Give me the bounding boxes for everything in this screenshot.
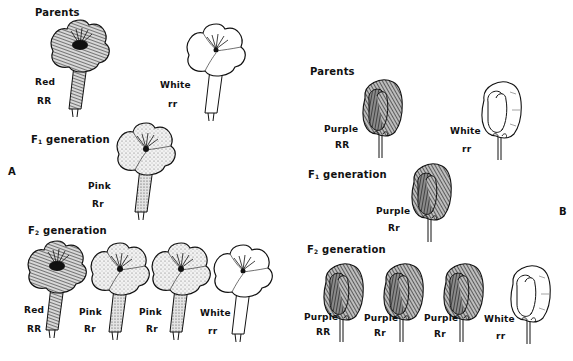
panel-a-parent-red-flower [47, 17, 113, 117]
panel-a-f2-1-color: Red [24, 306, 44, 315]
panel-a-f2-1-genotype: RR [27, 325, 41, 334]
panel-a-parent-white-flower [183, 21, 249, 129]
panel-a-parent-2-color: White [160, 81, 191, 90]
panel-b-f2-4-genotype: rr [496, 332, 505, 341]
panel-b-f1-color: Purple [376, 207, 410, 216]
panel-b-parent-white-flower [476, 80, 524, 162]
panel-b-f2-1-genotype: RR [316, 328, 330, 337]
panel-b-letter: B [559, 207, 567, 217]
panel-a-f1-color: Pink [88, 182, 111, 191]
panel-a-f2-4-color: White [200, 309, 231, 318]
panel-a-f2-pink-flower-1 [87, 240, 153, 348]
panel-b-f1-genotype: Rr [388, 224, 400, 233]
panel-a-f2-3-genotype: Rr [146, 325, 158, 334]
panel-b-parent-1-genotype: RR [335, 141, 349, 150]
panel-a-f2-3-color: Pink [139, 308, 162, 317]
panel-b-f2-4-color: White [484, 315, 515, 324]
panel-a-f2-2-genotype: Rr [84, 325, 96, 334]
panel-a-f2-2-color: Pink [79, 308, 102, 317]
panel-a-letter: A [8, 167, 16, 177]
panel-a-parent-2-genotype: rr [168, 100, 177, 109]
panel-b-parent-1-color: Purple [324, 125, 358, 134]
panel-b-f2-3-genotype: Rr [434, 330, 446, 339]
panel-b-f1-heading: F1 generation [308, 170, 387, 180]
panel-b-parent-2-genotype: rr [462, 145, 471, 154]
panel-b-f2-white-flower [505, 264, 553, 348]
panel-b-f2-3-color: Purple [424, 314, 458, 323]
panel-b-f2-heading: F2 generation [307, 245, 386, 255]
panel-b-f2-2-genotype: Rr [374, 329, 386, 338]
panel-a-f2-white-flower [210, 242, 276, 350]
panel-b-f2-1-color: Purple [304, 313, 338, 322]
panel-b-parents-heading: Parents [310, 67, 355, 77]
panel-b-parent-purple-flower [357, 78, 405, 160]
panel-b-parent-2-color: White [450, 127, 481, 136]
panel-a-parent-1-color: Red [35, 78, 55, 87]
panel-b-f2-2-color: Purple [364, 314, 398, 323]
panel-a-parent-1-genotype: RR [37, 97, 51, 106]
panel-a-f1-genotype: Rr [92, 200, 104, 209]
panel-a-f2-4-genotype: rr [208, 327, 217, 336]
panel-a-f1-pink-flower [113, 120, 179, 228]
panel-b-f1-purple-flower [406, 162, 454, 246]
panel-a-f2-heading: F2 generation [28, 226, 107, 236]
panel-a-f1-heading: F1 generation [31, 135, 110, 145]
